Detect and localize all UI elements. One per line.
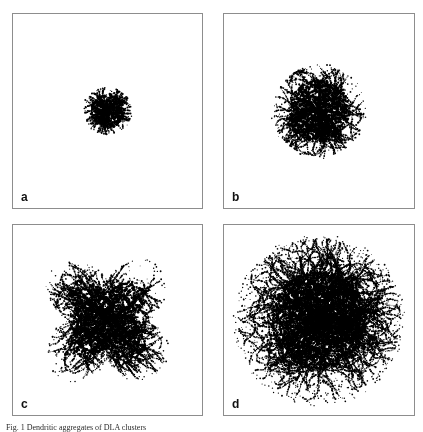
cluster-plot-c — [13, 225, 202, 415]
figure-panel-grid: a b c d Fig. 1 Dendritic aggregates of D… — [0, 0, 423, 432]
panel-label-d: d — [232, 398, 239, 410]
panel-a: a — [12, 13, 203, 209]
panel-d: d — [223, 224, 415, 416]
panel-c: c — [12, 224, 203, 416]
cluster-plot-a — [13, 14, 202, 208]
cluster-plot-d — [224, 225, 414, 415]
panel-label-a: a — [21, 191, 28, 203]
panel-b: b — [223, 13, 415, 209]
panel-label-b: b — [232, 191, 239, 203]
panel-label-c: c — [21, 398, 28, 410]
figure-caption: Fig. 1 Dendritic aggregates of DLA clust… — [6, 423, 418, 432]
cluster-plot-b — [224, 14, 414, 208]
